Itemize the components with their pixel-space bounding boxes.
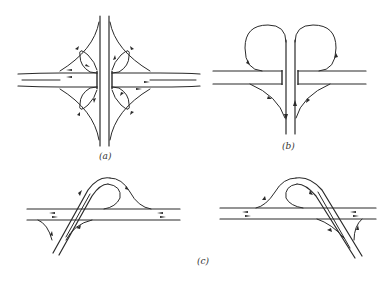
interchange-diagram xyxy=(0,0,389,283)
c2-diagonal-lane xyxy=(318,192,350,248)
a-loop-ne xyxy=(112,51,129,73)
c2-arrow-west-right xyxy=(350,211,356,213)
a-arrow-ramp-nw xyxy=(75,46,79,50)
a-arrow-ramp-sw xyxy=(77,112,80,116)
panel-label-c: (c) xyxy=(197,256,209,266)
a-main-road-top-right xyxy=(112,73,200,74)
c2-arrow-bottom-left xyxy=(327,228,332,232)
b-arrow-up xyxy=(293,100,297,106)
c1-arrow-west-top xyxy=(49,212,55,214)
b-loop-left xyxy=(245,25,286,71)
panel-label-a: (a) xyxy=(99,151,111,161)
c2-loop xyxy=(286,184,303,208)
a-arrow-loop-nw xyxy=(85,64,90,67)
b-connector-left xyxy=(250,84,285,118)
a-main-road-bottom xyxy=(18,86,97,87)
b-loop-right xyxy=(295,25,336,71)
c1-diagonal-lane xyxy=(66,194,90,237)
a-arrow-east-bottom xyxy=(136,88,142,90)
a-arrow-east-mid xyxy=(144,81,150,83)
a-arrow-ramp-ne xyxy=(130,46,134,50)
c2-arrow-east-right xyxy=(353,215,359,217)
c1-arrow-east-mid xyxy=(52,216,58,218)
c1-arrow-connector-top xyxy=(125,186,129,190)
a-main-road-bottom-right xyxy=(112,86,200,87)
a-connector-se xyxy=(110,89,150,140)
a-arrow-loop-se xyxy=(120,92,124,96)
c1-connector-bottom-left xyxy=(38,220,52,240)
panel-c-right xyxy=(220,178,376,258)
panel-a-cloverleaf xyxy=(18,16,200,146)
c1-connector-top xyxy=(110,178,151,209)
a-connector-nw xyxy=(60,22,99,71)
a-connector-ne xyxy=(110,22,150,71)
a-arrow-ramp-se xyxy=(130,111,134,115)
c2-arrow-connector-top xyxy=(262,196,266,200)
b-arrow-loop-right xyxy=(334,53,338,58)
c2-arrow-east-mid xyxy=(245,215,251,217)
c1-loop xyxy=(104,184,120,209)
a-loop-sw xyxy=(80,87,97,109)
a-loop-se xyxy=(112,87,129,109)
a-arrow-west-top xyxy=(66,69,72,71)
b-connector-right xyxy=(296,84,330,118)
panel-c-left xyxy=(27,178,180,255)
a-arrow-west-mid xyxy=(66,76,72,78)
c1-arrow-diag-up xyxy=(78,190,82,196)
panel-b-partial xyxy=(213,25,366,134)
c1-arrow-west-right xyxy=(157,212,163,214)
c2-arrow-west-top xyxy=(242,211,248,213)
c2-diagonal-inner xyxy=(297,184,355,258)
panel-label-b: (b) xyxy=(282,141,295,151)
a-arrow-loop-ne xyxy=(113,55,116,60)
a-main-road-top xyxy=(18,73,97,74)
c1-arrow-east-right xyxy=(160,216,166,218)
